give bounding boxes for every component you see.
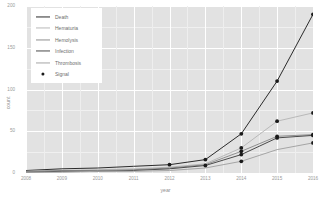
signal-point: [239, 149, 243, 153]
gridline-vertical: [313, 6, 314, 173]
x-tick-label: 2014: [236, 176, 246, 181]
signal-point: [239, 146, 243, 150]
signal-point: [204, 158, 208, 162]
x-tick-label: 2015: [272, 176, 282, 181]
legend-item-hemolysis[interactable]: Hemolysis: [34, 34, 96, 46]
x-tick-label: 2010: [93, 176, 103, 181]
signal-point: [275, 136, 279, 140]
legend-item-death[interactable]: Death: [34, 11, 96, 23]
legend-line-swatch-icon: [34, 23, 52, 35]
x-tick-label: 2011: [129, 176, 139, 181]
line-chart: 050100150200 200820092010201120122013201…: [0, 0, 331, 205]
signal-point: [275, 119, 279, 123]
x-tick-label: 2012: [164, 176, 174, 181]
legend-line-swatch-icon: [34, 11, 52, 23]
legend-item-signal[interactable]: Signal: [34, 69, 96, 81]
gridline-horizontal: [26, 173, 313, 174]
signal-point: [239, 153, 243, 157]
x-tick-label: 2013: [200, 176, 210, 181]
legend-item-infection[interactable]: Infection: [34, 46, 96, 58]
signal-point: [311, 111, 313, 115]
signal-point: [275, 79, 279, 83]
y-axis-label: count: [5, 96, 11, 109]
signal-point: [168, 163, 172, 167]
legend-item-label: Thrombosis: [52, 60, 81, 66]
signal-point: [204, 164, 208, 168]
legend-line-swatch-icon: [34, 34, 52, 46]
x-tick-label: 2009: [57, 176, 67, 181]
signal-point: [311, 141, 313, 145]
legend-item-label: Hemolysis: [52, 37, 78, 43]
series-line-infection: [26, 135, 313, 172]
legend-item-thrombosis[interactable]: Thrombosis: [34, 57, 96, 69]
chart-legend: DeathHematuriaHemolysisInfectionThrombos…: [31, 8, 102, 83]
signal-point: [311, 12, 313, 16]
legend-item-hematuria[interactable]: Hematuria: [34, 23, 96, 35]
x-tick-label: 2016: [308, 176, 318, 181]
x-tick-label: 2008: [21, 176, 31, 181]
legend-item-label: Signal: [52, 71, 69, 77]
series-line-hematuria: [26, 113, 313, 171]
signal-point: [239, 132, 243, 136]
legend-item-label: Hematuria: [52, 25, 78, 31]
legend-item-label: Death: [52, 14, 68, 20]
signal-point: [239, 159, 243, 163]
legend-line-swatch-icon: [34, 46, 52, 58]
legend-line-swatch-icon: [34, 57, 52, 69]
legend-item-label: Infection: [52, 48, 74, 54]
legend-point-swatch-icon: [34, 69, 52, 81]
x-axis-label: year: [0, 187, 331, 193]
